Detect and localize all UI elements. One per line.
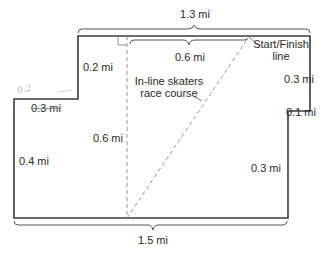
- label-right-upper: 0.3 mi: [284, 73, 314, 85]
- label-left-side: 0.4 mi: [19, 155, 49, 167]
- label-center-vertical: 0.6 mi: [93, 132, 123, 144]
- label-bottom-total: 1.5 mi: [138, 234, 168, 246]
- label-top-total: 1.3 mi: [180, 8, 210, 20]
- label-left-step: 0.3 mi: [31, 102, 61, 114]
- start-finish-line1: Start/Finish: [253, 38, 309, 50]
- pencil-mark: [57, 90, 72, 92]
- course-label: In-line skaters race course: [133, 75, 205, 99]
- label-right-step: 0.1 mi: [286, 106, 316, 118]
- start-finish-line2: line: [253, 50, 309, 62]
- course-label-line1: In-line skaters: [133, 75, 205, 87]
- top-inner-brace: [130, 38, 248, 45]
- course-outline: [14, 36, 310, 218]
- start-finish-label: Start/Finish line: [253, 38, 309, 62]
- course-label-line2: race course: [133, 87, 205, 99]
- label-upper-left-step: 0.2 mi: [83, 61, 113, 73]
- bottom-total-brace: [14, 221, 287, 230]
- right-angle-marker: [118, 36, 127, 45]
- top-total-brace: [78, 25, 310, 33]
- label-top-inner: 0.6 mi: [175, 51, 205, 63]
- race-course-diagonal: [127, 38, 248, 218]
- label-right-lower: 0.3 mi: [251, 162, 281, 174]
